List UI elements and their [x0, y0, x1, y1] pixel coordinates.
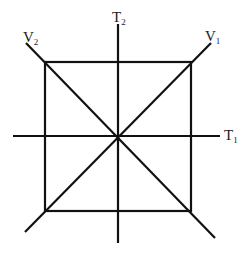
- label-v2: V2: [23, 29, 38, 47]
- label-t1: T1: [224, 127, 238, 145]
- label-t2: T2: [112, 9, 126, 27]
- diagram-canvas: T2 V2 V1 T1: [0, 0, 246, 256]
- axis-v2-diagonal: [26, 43, 215, 238]
- label-v1: V1: [205, 28, 220, 46]
